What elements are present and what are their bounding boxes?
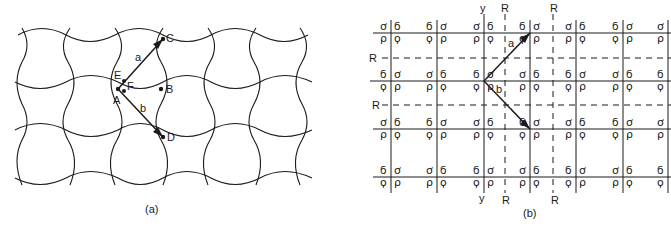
caption-b: (b): [523, 207, 536, 219]
motif-glyph: ρ: [380, 32, 387, 45]
motif-glyph: ρ: [626, 32, 633, 45]
motif-glyph: ρ: [579, 80, 586, 93]
label-R-left-1: R: [369, 52, 377, 64]
motif-glyphs: ơϭρϙϭơϙρơϭρϙϭơϙρơϭρϙϭơϙρơρϭơϙρơϭρϙϭơϙρơϭ…: [380, 20, 664, 189]
motif-glyph: ρ: [519, 80, 526, 93]
label-B: B: [166, 83, 173, 95]
label-a-b: a: [508, 37, 515, 49]
label-b-b: b: [496, 83, 502, 95]
motif-glyph: ϙ: [533, 80, 540, 93]
motif-glyph: ϙ: [612, 32, 619, 45]
motif-glyph: ϙ: [487, 32, 494, 45]
motif-glyph: ϙ: [565, 80, 572, 93]
figure: C a E F B A b D (a): [0, 0, 671, 231]
motif-glyph: ϙ: [487, 128, 494, 141]
motif-glyph: ρ: [565, 32, 572, 45]
motif-glyph: ϙ: [612, 128, 619, 141]
motif-glyph: ρ: [440, 32, 447, 45]
motif-glyph: ρ: [440, 128, 447, 141]
motif-glyph: ρ: [565, 128, 572, 141]
motif-glyph: ρ: [579, 176, 586, 189]
motif-glyph: ρ: [519, 176, 526, 189]
motif-glyph: ρ: [394, 176, 401, 189]
motif-glyph: ϙ: [519, 32, 526, 45]
label-b: b: [140, 102, 146, 114]
motif-glyph: ϙ: [426, 32, 433, 45]
label-F: F: [127, 80, 134, 92]
motif-glyph: ϙ: [440, 80, 447, 93]
label-R-bottom-2: R: [551, 194, 559, 206]
label-E: E: [114, 69, 121, 81]
motif-glyph: ϙ: [657, 176, 664, 189]
label-y-bottom: y: [479, 192, 485, 204]
tile-row-curves: [15, 29, 312, 185]
point-C: [161, 37, 165, 41]
label-A: A: [113, 94, 121, 106]
label-R-top-2: R: [550, 2, 558, 14]
motif-glyph: ϙ: [626, 80, 633, 93]
panel-a: [15, 28, 312, 185]
label-R-bottom-1: R: [502, 194, 510, 206]
motif-glyph: ρ: [612, 176, 619, 189]
motif-glyph: ϙ: [519, 128, 526, 141]
motif-glyph: ϙ: [394, 128, 401, 141]
motif-glyph: ρ: [473, 128, 480, 141]
point-F: [122, 89, 126, 93]
point-B: [159, 87, 163, 91]
motif-glyph: ρ: [533, 128, 540, 141]
motif-glyph: ϙ: [394, 32, 401, 45]
label-C: C: [166, 32, 174, 44]
motif-glyph: ρ: [487, 80, 494, 93]
motif-glyph: ρ: [487, 176, 494, 189]
motif-glyph: ϙ: [440, 176, 447, 189]
motif-glyph: ρ: [626, 128, 633, 141]
motif-glyph: ρ: [473, 32, 480, 45]
motif-glyph: ϙ: [533, 176, 540, 189]
point-D: [161, 135, 165, 139]
motif-glyph: ρ: [612, 80, 619, 93]
motif-glyph: ϙ: [426, 128, 433, 141]
point-A: [116, 87, 120, 91]
tile-column-curves: [17, 28, 307, 185]
motif-glyph: ρ: [657, 128, 664, 141]
label-R-left-2: R: [372, 99, 380, 111]
label-R-top-1: R: [501, 2, 509, 14]
motif-glyph: ρ: [380, 128, 387, 141]
motif-glyph: ϙ: [380, 176, 387, 189]
label-y-top: y: [480, 2, 486, 14]
motif-glyph: ρ: [426, 176, 433, 189]
label-D: D: [167, 131, 175, 143]
motif-glyph: ρ: [657, 32, 664, 45]
motif-glyph: ϙ: [579, 32, 586, 45]
motif-glyph: ϙ: [473, 176, 480, 189]
motif-glyph: ρ: [426, 80, 433, 93]
motif-glyph: ϙ: [473, 80, 480, 93]
motif-glyph: ϙ: [565, 176, 572, 189]
motif-glyph: ρ: [394, 80, 401, 93]
motif-glyph: ϙ: [626, 176, 633, 189]
motif-glyph: ϙ: [657, 80, 664, 93]
point-E: [122, 79, 126, 83]
caption-a: (a): [145, 203, 158, 215]
motif-glyph: ρ: [533, 32, 540, 45]
label-a: a: [135, 51, 142, 63]
motif-glyph: ϙ: [380, 80, 387, 93]
motif-glyph: ϙ: [579, 128, 586, 141]
